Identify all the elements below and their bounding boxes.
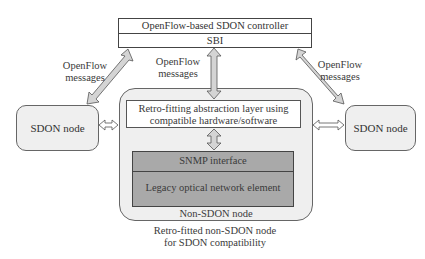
openflow-messages-left-line1: OpenFlow [60, 60, 110, 72]
double-arrow-abstraction-snmp [207, 129, 221, 150]
non-sdon-node-label: Non-SDON node [119, 208, 313, 220]
double-arrow-right-horizontal [313, 120, 344, 130]
caption-line-2: for SDON compatibility [110, 237, 320, 249]
openflow-messages-right-line2: messages [314, 71, 366, 83]
double-arrow-center-vertical [207, 48, 221, 99]
double-arrow-left-horizontal [99, 120, 118, 130]
openflow-messages-right-line1: OpenFlow [314, 59, 366, 71]
openflow-messages-center-line2: messages [152, 68, 204, 80]
caption-line-1: Retro-fitted non-SDON node [110, 225, 320, 237]
openflow-messages-center-line1: OpenFlow [152, 56, 204, 68]
arrows-layer [0, 0, 425, 259]
openflow-messages-left-line2: messages [60, 72, 110, 84]
